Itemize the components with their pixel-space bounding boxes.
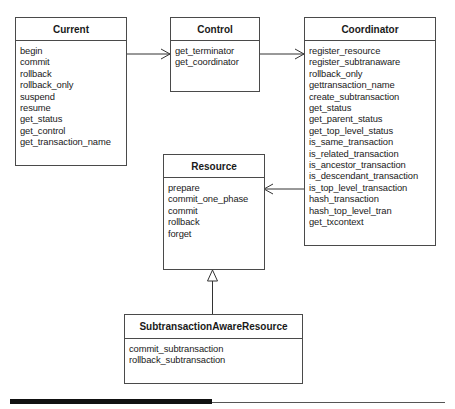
class-control: Control get_terminatorget_coordinator — [170, 17, 260, 92]
operation: create_subtransaction — [309, 91, 435, 102]
class-resource: Resource preparecommit_one_phasecommitro… — [163, 154, 265, 270]
operation: commit — [168, 205, 264, 216]
operation: get_status — [20, 113, 126, 124]
operation: get_control — [20, 125, 126, 136]
generalization-triangle-icon — [208, 270, 218, 281]
operation: begin — [20, 45, 126, 56]
class-name: Current — [16, 18, 126, 41]
operation: commit_one_phase — [168, 193, 264, 204]
class-name: Coordinator — [305, 18, 435, 41]
operations-list: register_resourceregister_subtranawarero… — [305, 41, 435, 228]
operation: rollback — [20, 68, 126, 79]
operation: get_transaction_name — [20, 136, 126, 147]
operation: commit_subtransaction — [129, 343, 302, 354]
footer-rule-thin — [212, 402, 445, 403]
operation: get_top_level_status — [309, 125, 435, 136]
operations-list: begincommitrollbackrollback_onlysuspendr… — [16, 41, 126, 148]
operation: get_parent_status — [309, 113, 435, 124]
operation: rollback_subtransaction — [129, 354, 302, 365]
operation: gettransaction_name — [309, 79, 435, 90]
operation: rollback_only — [309, 68, 435, 79]
operation: suspend — [20, 91, 126, 102]
operation: get_coordinator — [175, 56, 259, 67]
operation: is_same_transaction — [309, 136, 435, 147]
operation: is_descendant_transaction — [309, 170, 435, 181]
operation: rollback_only — [20, 79, 126, 90]
operation: is_top_level_transaction — [309, 182, 435, 193]
operation: hash_transaction — [309, 193, 435, 204]
operation: register_subtranaware — [309, 56, 435, 67]
operation: forget — [168, 228, 264, 239]
operation: resume — [20, 102, 126, 113]
operation: get_txcontext — [309, 216, 435, 227]
operation: is_related_transaction — [309, 148, 435, 159]
operation: get_terminator — [175, 45, 259, 56]
class-coordinator: Coordinator register_resourceregister_su… — [304, 17, 436, 246]
operation: register_resource — [309, 45, 435, 56]
class-subtransaction-aware-resource: SubtransactionAwareResource commit_subtr… — [124, 314, 303, 384]
operation: hash_top_level_tran — [309, 205, 435, 216]
operation: is_ancestor_transaction — [309, 159, 435, 170]
operation: commit — [20, 56, 126, 67]
operation: get_status — [309, 102, 435, 113]
operations-list: preparecommit_one_phasecommitrollbackfor… — [164, 178, 264, 239]
operation: rollback — [168, 216, 264, 227]
class-name: Control — [171, 18, 259, 41]
class-name: SubtransactionAwareResource — [125, 315, 302, 339]
operations-list: get_terminatorget_coordinator — [171, 41, 259, 68]
footer-rule-thick — [10, 399, 212, 404]
operations-list: commit_subtransactionrollback_subtransac… — [125, 339, 302, 366]
class-name: Resource — [164, 155, 264, 178]
operation: prepare — [168, 182, 264, 193]
class-current: Current begincommitrollbackrollback_only… — [15, 17, 127, 166]
